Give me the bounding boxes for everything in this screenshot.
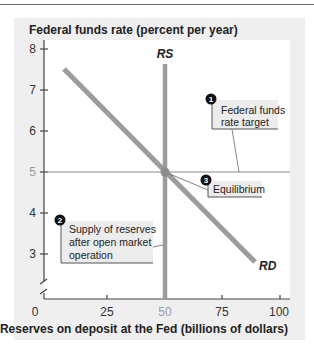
svg-text:operation: operation: [69, 249, 113, 261]
x-tick-label: 0: [32, 305, 39, 319]
svg-text:2: 2: [58, 216, 63, 225]
svg-text:Federal funds: Federal funds: [221, 104, 285, 116]
svg-text:1: 1: [209, 95, 214, 104]
equilibrium-point: [161, 168, 170, 177]
y-tick-label: 3: [29, 247, 36, 261]
x-axis-title: Reserves on deposit at the Fed (billions…: [0, 322, 288, 336]
svg-text:Equilibrium: Equilibrium: [213, 183, 265, 195]
rd-label: RD: [259, 259, 277, 273]
svg-text:rate target: rate target: [221, 116, 269, 128]
svg-text:after open market: after open market: [69, 236, 151, 248]
callout-supply-reserves: 2 Supply of reserves after open market o…: [55, 215, 164, 264]
y-tick-label: 5: [29, 165, 36, 179]
y-axis-title: Federal funds rate (percent per year): [29, 23, 238, 37]
chart: Federal funds rate (percent per year) 8 …: [0, 0, 314, 360]
x-tick-label: 50: [158, 305, 172, 319]
y-tick-label: 7: [29, 83, 36, 97]
rs-label: RS: [157, 47, 174, 61]
svg-text:3: 3: [204, 176, 209, 185]
y-tick-label: 4: [29, 206, 36, 220]
y-tick-label: 6: [29, 124, 36, 138]
x-tick-label: 75: [215, 305, 229, 319]
svg-text:Supply of reserves: Supply of reserves: [69, 223, 156, 235]
x-tick-label: 100: [269, 305, 289, 319]
x-tick-label: 25: [100, 305, 114, 319]
y-tick-label: 8: [29, 42, 36, 56]
